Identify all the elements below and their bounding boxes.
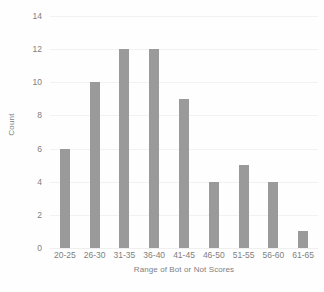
y-axis-tick-label: 6 (37, 144, 42, 153)
plot-area (50, 16, 318, 248)
x-axis-tick-label: 56-60 (262, 250, 284, 262)
y-axis-tick-label: 0 (37, 244, 42, 253)
bars (50, 16, 318, 248)
y-axis-tick-label: 4 (37, 177, 42, 186)
y-axis-tick-label: 10 (33, 78, 42, 87)
bar (119, 49, 129, 248)
y-axis-tick-label: 12 (33, 45, 42, 54)
x-axis-tick-label: 51-55 (233, 250, 255, 262)
bar (268, 182, 278, 248)
bar (60, 149, 70, 248)
y-axis-tick-label: 8 (37, 111, 42, 120)
y-axis-title-text: Count (7, 113, 16, 135)
x-axis-tick-label: 61-65 (292, 250, 314, 262)
bar (209, 182, 219, 248)
bar (298, 231, 308, 248)
x-axis-tick-label: 41-45 (173, 250, 195, 262)
y-axis-tick-label: 14 (33, 12, 42, 21)
gridline (50, 248, 318, 249)
bar (90, 82, 100, 248)
bar (149, 49, 159, 248)
y-axis-tick-labels: 02468101214 (20, 0, 46, 248)
x-axis-tick-label: 26-30 (84, 250, 106, 262)
x-axis-tick-label: 31-35 (114, 250, 136, 262)
x-axis-tick-label: 46-50 (203, 250, 225, 262)
bar (239, 165, 249, 248)
bar (179, 99, 189, 248)
x-axis-tick-labels: 20-2526-3031-3536-4041-4546-5051-5556-60… (50, 250, 318, 264)
bar-chart: Count 02468101214 20-2526-3031-3536-4041… (0, 0, 324, 292)
x-axis-tick-label: 36-40 (143, 250, 165, 262)
x-axis-tick-label: 20-25 (54, 250, 76, 262)
y-axis-tick-label: 2 (37, 211, 42, 220)
x-axis-title: Range of Bot or Not Scores (50, 265, 318, 274)
y-axis-title: Count (2, 0, 20, 248)
